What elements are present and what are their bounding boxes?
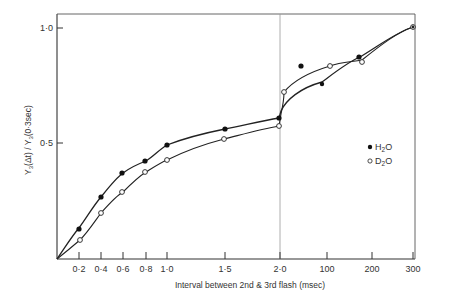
svg-text:0·2: 0·2 <box>72 264 85 274</box>
svg-text:0·4: 0·4 <box>94 264 107 274</box>
chart: 1·0 0·5 Y3(Δt) / Y3(0·3sec) 0·2 0·4 0·6 … <box>0 0 450 299</box>
svg-text:300: 300 <box>405 264 420 274</box>
svg-text:2·0: 2·0 <box>273 264 286 274</box>
legend-d2o-label: D2O <box>375 156 392 167</box>
svg-text:0·6: 0·6 <box>116 264 129 274</box>
svg-text:1·5: 1·5 <box>218 264 231 274</box>
legend-h2o-label: H2O <box>375 142 392 153</box>
y-tick-label: 0·5 <box>40 138 53 148</box>
svg-text:Y3(Δt) / Y3(0·3sec): Y3(Δt) / Y3(0·3sec) <box>23 105 34 175</box>
legend: H2O D2O <box>368 142 392 167</box>
svg-text:1·0: 1·0 <box>160 264 173 274</box>
svg-text:0·8: 0·8 <box>139 264 152 274</box>
y-tick-label: 1·0 <box>40 23 53 33</box>
svg-text:100: 100 <box>319 264 334 274</box>
x-axis <box>79 252 413 259</box>
svg-text:200: 200 <box>364 264 379 274</box>
x-tick-labels: 0·2 0·4 0·6 0·8 1·0 1·5 2·0 100 200 300 <box>72 264 420 274</box>
end-point <box>412 26 415 29</box>
legend-d2o-marker <box>368 159 372 163</box>
x-axis-label: Interval between 2nd & 3rd flash (msec) <box>175 280 325 290</box>
y-axis: 1·0 0·5 <box>40 23 63 148</box>
series-h2o-markers <box>76 54 361 231</box>
y-axis-label: Y3(Δt) / Y3(0·3sec) <box>23 105 34 175</box>
legend-h2o-marker <box>368 145 372 149</box>
